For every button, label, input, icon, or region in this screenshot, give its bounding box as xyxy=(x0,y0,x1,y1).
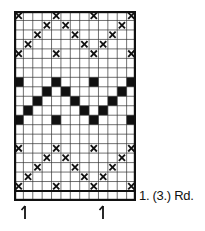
chart-grid xyxy=(14,11,136,201)
filled-stitch xyxy=(89,77,98,86)
filled-stitch xyxy=(108,96,117,105)
filled-stitch xyxy=(61,87,70,96)
filled-stitch xyxy=(70,96,79,105)
base-round-label: 1. (3.) Rd. xyxy=(139,188,194,203)
filled-stitch xyxy=(33,96,42,105)
filled-stitch xyxy=(98,106,107,115)
filled-stitch xyxy=(42,87,51,96)
filled-stitch xyxy=(117,87,126,96)
filled-stitch xyxy=(52,115,61,124)
filled-stitch xyxy=(23,106,32,115)
arrow-up-icon xyxy=(98,204,108,220)
arrow-up-icon xyxy=(20,204,30,220)
filled-stitch xyxy=(52,77,61,86)
filled-stitch xyxy=(89,115,98,124)
filled-stitch xyxy=(80,106,89,115)
knitting-chart xyxy=(14,11,136,201)
